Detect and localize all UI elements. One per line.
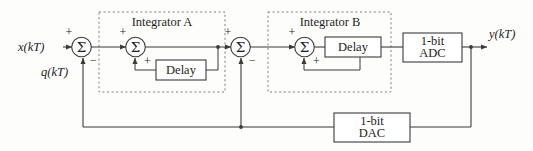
summer-3-sigma: Σ xyxy=(236,39,246,55)
summer-3-sign-bottom: − xyxy=(249,53,256,67)
block-adc[interactable]: 1-bit ADC xyxy=(403,33,462,62)
junction-dot-output-tap xyxy=(469,45,473,49)
block-delay-b-label: Delay xyxy=(338,40,369,54)
summer-2-sign-bottom: + xyxy=(144,54,151,68)
block-delay-a[interactable]: Delay xyxy=(156,60,206,80)
summer-1-sign-bottom: − xyxy=(90,53,97,67)
summer-4-sign-bottom: + xyxy=(313,54,320,68)
group-label-integrator-b: Integrator B xyxy=(300,15,361,29)
summer-3-sign-top: + xyxy=(225,25,232,39)
summer-1: Σ + − xyxy=(66,25,98,67)
block-adc-label-line2: ADC xyxy=(419,46,445,60)
signal-label-input: x(kT) xyxy=(17,40,44,54)
summer-2-sigma: Σ xyxy=(131,39,141,55)
group-label-integrator-a: Integrator A xyxy=(132,15,193,29)
block-dac[interactable]: 1-bit DAC xyxy=(334,113,410,142)
summer-4-sign-top: + xyxy=(289,25,296,39)
signal-label-quantization-text: q(kT) xyxy=(41,65,68,79)
summer-1-sigma: Σ xyxy=(77,39,87,55)
signal-label-input-text: x(kT) xyxy=(17,40,44,54)
junction-dot-feedback-branch xyxy=(239,125,243,129)
block-delay-a-label: Delay xyxy=(166,63,197,77)
summer-3: Σ + − xyxy=(225,25,257,67)
diagram-canvas: Integrator A Integrator B xyxy=(0,0,533,151)
summer-2-sign-top: + xyxy=(120,25,127,39)
sigma-delta-block-diagram: Integrator A Integrator B xyxy=(0,0,533,151)
junction-dot-integrator-a-tap xyxy=(216,45,220,49)
signal-label-output-text: y(kT) xyxy=(487,27,515,41)
summer-1-sign-top: + xyxy=(66,25,73,39)
block-dac-label-line2: DAC xyxy=(359,126,385,140)
signal-label-quantization: q(kT) xyxy=(41,65,68,79)
summer-4-sigma: Σ xyxy=(300,39,310,55)
block-delay-b[interactable]: Delay xyxy=(325,37,381,57)
signal-label-output: y(kT) xyxy=(487,27,515,41)
